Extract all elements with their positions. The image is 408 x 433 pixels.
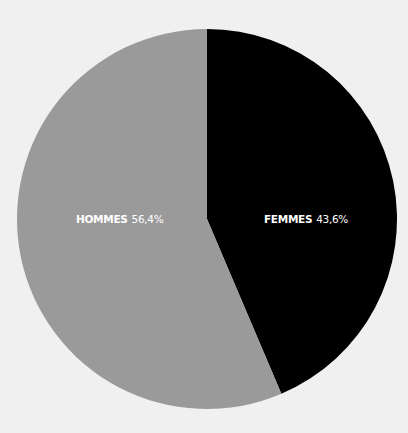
label-hommes-name: HOMMES [76, 213, 128, 225]
label-femmes: FEMMES43,6% [264, 213, 348, 225]
label-hommes-value: 56,4% [132, 213, 164, 225]
label-femmes-value: 43,6% [316, 213, 348, 225]
label-femmes-name: FEMMES [264, 213, 312, 225]
pie-chart: HOMMES56,4% FEMMES43,6% [0, 0, 408, 433]
label-hommes: HOMMES56,4% [76, 213, 164, 225]
